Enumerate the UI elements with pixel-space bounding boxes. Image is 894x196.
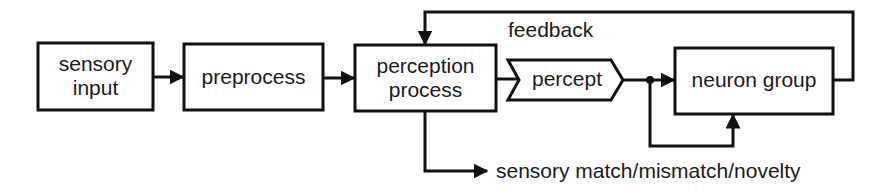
junction-dot bbox=[646, 76, 654, 84]
output-label: sensory match/mismatch/novelty bbox=[496, 159, 801, 183]
perception-process-line1: perception bbox=[355, 54, 496, 78]
sensory-input-line1: sensory bbox=[38, 52, 153, 76]
perception-process-label: perception process bbox=[355, 54, 496, 102]
edge-output bbox=[425, 111, 487, 171]
sensory-input-label: sensory input bbox=[38, 52, 153, 100]
sensory-input-line2: input bbox=[38, 76, 153, 100]
perception-process-line2: process bbox=[355, 78, 496, 102]
preprocess-label: preprocess bbox=[184, 65, 323, 89]
neuron-group-label: neuron group bbox=[675, 68, 833, 92]
feedback-label: feedback bbox=[508, 18, 593, 42]
percept-label: percept bbox=[519, 67, 615, 91]
